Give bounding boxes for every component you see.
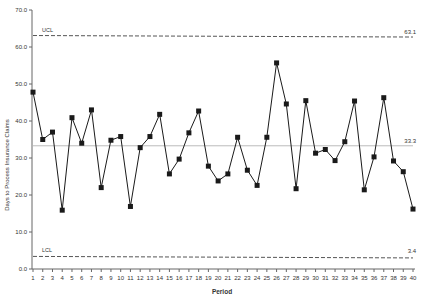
- x-tick-label: 10: [117, 275, 124, 281]
- y-tick-label: 30.0: [15, 155, 27, 161]
- data-point-marker: [401, 169, 406, 174]
- x-tick-label: 2: [41, 275, 45, 281]
- control-chart: 0.010.020.030.040.050.060.070.0 12345678…: [0, 0, 423, 302]
- x-tick-label: 40: [410, 275, 417, 281]
- x-tick-label: 4: [61, 275, 65, 281]
- data-point-marker: [372, 154, 377, 159]
- data-point-marker: [31, 90, 36, 95]
- x-tick-label: 33: [341, 275, 348, 281]
- series-line: [33, 63, 413, 210]
- data-point-marker: [40, 137, 45, 142]
- y-axis-label: Days to Process Insurance Claims: [4, 119, 10, 211]
- data-point-marker: [177, 157, 182, 162]
- data-point-marker: [99, 185, 104, 190]
- y-tick-label: 10.0: [15, 229, 27, 235]
- x-tick-label: 13: [147, 275, 154, 281]
- lcl-label: LCL: [42, 247, 52, 253]
- x-tick-label: 9: [109, 275, 113, 281]
- data-point-marker: [128, 204, 133, 209]
- x-tick-label: 30: [312, 275, 319, 281]
- data-point-marker: [147, 134, 152, 139]
- x-tick-label: 1: [31, 275, 35, 281]
- data-point-marker: [50, 130, 55, 135]
- x-tick-label: 29: [302, 275, 309, 281]
- x-tick-label: 22: [234, 275, 241, 281]
- data-point-marker: [108, 138, 113, 143]
- data-point-marker: [333, 158, 338, 163]
- data-point-marker: [60, 208, 65, 213]
- lcl-value: 3.4: [408, 248, 417, 254]
- y-tick-label: 0.0: [19, 266, 28, 272]
- data-point-marker: [255, 183, 260, 188]
- data-point-marker: [294, 186, 299, 191]
- x-tick-label: 14: [156, 275, 163, 281]
- data-point-marker: [89, 107, 94, 112]
- data-point-marker: [342, 139, 347, 144]
- x-tick-label: 24: [254, 275, 261, 281]
- data-point-marker: [167, 171, 172, 176]
- data-point-marker: [284, 101, 289, 106]
- lcl-line: [33, 256, 413, 258]
- x-tick-label: 35: [361, 275, 368, 281]
- y-tick-label: 20.0: [15, 192, 27, 198]
- x-tick-label: 12: [137, 275, 144, 281]
- data-point-marker: [352, 99, 357, 104]
- ucl-value: 63.1: [404, 29, 416, 35]
- data-point-marker: [118, 134, 123, 139]
- data-point-marker: [391, 158, 396, 163]
- data-point-marker: [313, 151, 318, 156]
- ucl-line: [33, 36, 413, 38]
- x-tick-label: 8: [100, 275, 104, 281]
- x-tick-label: 28: [293, 275, 300, 281]
- data-point-marker: [274, 60, 279, 65]
- x-tick-label: 23: [244, 275, 251, 281]
- data-point-marker: [245, 168, 250, 173]
- data-point-marker: [206, 164, 211, 169]
- x-axis-label: Period: [212, 288, 232, 295]
- y-tick-label: 60.0: [15, 44, 27, 50]
- x-tick-label: 34: [351, 275, 358, 281]
- x-tick-label: 3: [51, 275, 55, 281]
- x-tick-label: 25: [264, 275, 271, 281]
- x-tick-label: 15: [166, 275, 173, 281]
- x-tick-label: 5: [70, 275, 74, 281]
- x-tick-label: 37: [380, 275, 387, 281]
- x-tick-label: 32: [332, 275, 339, 281]
- x-tick-label: 16: [176, 275, 183, 281]
- y-tick-label: 70.0: [15, 7, 27, 13]
- data-point-marker: [362, 187, 367, 192]
- x-tick-label: 20: [215, 275, 222, 281]
- data-point-marker: [235, 135, 240, 140]
- data-point-marker: [411, 207, 416, 212]
- data-point-marker: [303, 98, 308, 103]
- data-series: [31, 60, 416, 212]
- y-tick-label: 50.0: [15, 81, 27, 87]
- y-axis: 0.010.020.030.040.050.060.070.0: [15, 7, 32, 272]
- x-tick-label: 19: [205, 275, 212, 281]
- x-tick-label: 26: [273, 275, 280, 281]
- y-tick-label: 40.0: [15, 118, 27, 124]
- data-point-marker: [225, 171, 230, 176]
- x-axis: 1234567891011121314151617181920212223242…: [31, 269, 417, 281]
- x-tick-label: 17: [186, 275, 193, 281]
- x-tick-label: 38: [390, 275, 397, 281]
- x-tick-label: 39: [400, 275, 407, 281]
- data-point-marker: [79, 141, 84, 146]
- data-point-marker: [157, 112, 162, 117]
- ucl-label: UCL: [42, 27, 53, 33]
- x-tick-label: 21: [225, 275, 232, 281]
- center-line-value: 33.3: [404, 138, 416, 144]
- x-tick-label: 6: [80, 275, 84, 281]
- x-tick-label: 11: [127, 275, 134, 281]
- data-point-marker: [323, 147, 328, 152]
- x-tick-label: 7: [90, 275, 94, 281]
- data-point-marker: [69, 115, 74, 120]
- data-point-marker: [186, 130, 191, 135]
- x-tick-label: 36: [371, 275, 378, 281]
- x-tick-label: 27: [283, 275, 290, 281]
- data-point-marker: [381, 95, 386, 100]
- data-point-marker: [264, 135, 269, 140]
- data-point-marker: [196, 109, 201, 114]
- data-point-marker: [216, 178, 221, 183]
- x-tick-label: 18: [195, 275, 202, 281]
